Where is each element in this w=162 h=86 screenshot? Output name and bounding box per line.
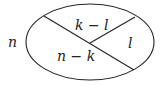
region-label-n-minus-k: n − k (57, 48, 95, 64)
region-label-k-minus-l: k − l (75, 17, 109, 33)
outer-label-n: n (8, 34, 17, 50)
outer-ellipse (26, 4, 154, 80)
region-label-l: l (128, 35, 132, 51)
set-partition-diagram: n k − l l n − k (0, 0, 162, 86)
